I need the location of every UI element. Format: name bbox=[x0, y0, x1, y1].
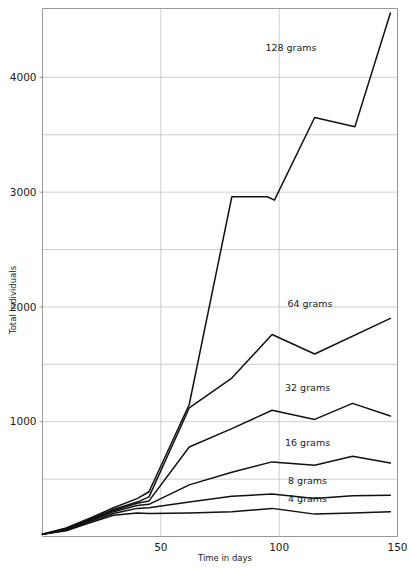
x-axis-tick-labels: 50100150 bbox=[154, 541, 407, 553]
series-label-32-grams: 32 grams bbox=[285, 382, 330, 393]
series-line-16-grams bbox=[43, 456, 391, 534]
x-tick-label: 100 bbox=[269, 541, 289, 553]
chart-container: 1000200030004000 50100150 128 grams64 gr… bbox=[0, 0, 410, 573]
series-label-8-grams: 8 grams bbox=[288, 475, 327, 486]
line-chart: 1000200030004000 50100150 128 grams64 gr… bbox=[0, 0, 410, 573]
y-axis-tick-labels: 1000200030004000 bbox=[10, 71, 43, 427]
series-line-128-grams bbox=[43, 13, 391, 534]
series-line-64-grams bbox=[43, 318, 391, 534]
gridlines-horizontal bbox=[43, 77, 398, 479]
plot-frame bbox=[43, 9, 398, 537]
series-label-64-grams: 64 grams bbox=[287, 298, 332, 309]
y-tick-label: 3000 bbox=[10, 186, 37, 198]
x-tick-label: 150 bbox=[387, 541, 407, 553]
y-tick-label: 4000 bbox=[10, 71, 37, 83]
series-labels: 128 grams64 grams32 grams16 grams8 grams… bbox=[265, 42, 332, 504]
x-axis-title: Time in days bbox=[197, 553, 253, 563]
series-line-4-grams bbox=[43, 508, 391, 534]
series-line-32-grams bbox=[43, 403, 391, 534]
y-tick-label: 1000 bbox=[10, 415, 37, 427]
series-label-4-grams: 4 grams bbox=[288, 493, 327, 504]
y-axis-title: Total individuals bbox=[8, 265, 18, 335]
series-label-128-grams: 128 grams bbox=[265, 42, 316, 53]
series-lines bbox=[43, 13, 391, 534]
series-label-16-grams: 16 grams bbox=[285, 437, 330, 448]
x-tick-label: 50 bbox=[154, 541, 167, 553]
